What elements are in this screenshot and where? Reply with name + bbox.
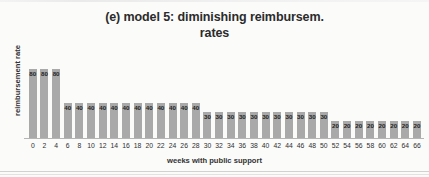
bar: 30 — [285, 112, 293, 138]
x-tick-label: 4 — [50, 141, 62, 150]
bar-value-label: 20 — [332, 122, 339, 129]
bar-value-label: 30 — [227, 113, 234, 120]
bar-slot: 40 — [97, 62, 109, 138]
bar-value-label: 40 — [157, 104, 164, 111]
bar-value-label: 40 — [64, 104, 71, 111]
x-tick-label: 22 — [155, 141, 167, 150]
bar-value-label: 30 — [262, 113, 269, 120]
bar-value-label: 30 — [251, 113, 258, 120]
x-tick-label: 32 — [213, 141, 225, 150]
bar-value-label: 40 — [76, 104, 83, 111]
bar: 40 — [110, 103, 118, 138]
bar-slot: 30 — [306, 62, 318, 138]
bar: 20 — [378, 121, 386, 138]
chart-title: (e) model 5: diminishing reimbursem. rat… — [0, 9, 429, 41]
bar-value-label: 30 — [297, 113, 304, 120]
bar-slot: 40 — [178, 62, 190, 138]
bar-value-label: 80 — [29, 70, 36, 77]
x-tick-label: 36 — [237, 141, 249, 150]
bar-value-label: 20 — [379, 122, 386, 129]
bar: 20 — [413, 121, 421, 138]
bar-slot: 30 — [318, 62, 330, 138]
bar: 40 — [157, 103, 165, 138]
bar-slot: 40 — [62, 62, 74, 138]
bar-value-label: 40 — [122, 104, 129, 111]
x-tick-label: 48 — [306, 141, 318, 150]
bar-slot: 40 — [85, 62, 97, 138]
x-tick-label: 46 — [295, 141, 307, 150]
chart-figure: (e) model 5: diminishing reimbursem. rat… — [0, 0, 429, 177]
bar-slot: 20 — [353, 62, 365, 138]
bar-value-label: 30 — [320, 113, 327, 120]
x-tick-label: 10 — [85, 141, 97, 150]
x-tick-label: 24 — [167, 141, 179, 150]
bar-slot: 30 — [202, 62, 214, 138]
chart-title-line-2: rates — [0, 25, 429, 41]
x-tick-label: 60 — [376, 141, 388, 150]
bar-slot: 20 — [388, 62, 400, 138]
bar-slot: 30 — [237, 62, 249, 138]
x-tick-label: 34 — [225, 141, 237, 150]
bar-slot: 30 — [213, 62, 225, 138]
bar-slot: 20 — [376, 62, 388, 138]
x-tick-label: 12 — [97, 141, 109, 150]
bar-value-label: 20 — [414, 122, 421, 129]
x-tick-label: 44 — [283, 141, 295, 150]
x-tick-label: 40 — [260, 141, 272, 150]
bar-slot: 20 — [341, 62, 353, 138]
bar: 20 — [366, 121, 374, 138]
scan-artifact-bottom — [0, 171, 429, 172]
bar-value-label: 40 — [169, 104, 176, 111]
bar-value-label: 30 — [285, 113, 292, 120]
x-tick-label: 58 — [365, 141, 377, 150]
bar-value-label: 80 — [53, 70, 60, 77]
x-tick-label: 8 — [74, 141, 86, 150]
bar: 30 — [273, 112, 281, 138]
bar: 30 — [215, 112, 223, 138]
x-tick-label: 38 — [248, 141, 260, 150]
bar: 20 — [343, 121, 351, 138]
bar-slot: 80 — [27, 62, 39, 138]
x-tick-label: 50 — [318, 141, 330, 150]
bar: 20 — [401, 121, 409, 138]
bar: 40 — [134, 103, 142, 138]
bar-value-label: 30 — [274, 113, 281, 120]
x-tick-label: 14 — [108, 141, 120, 150]
x-tick-label: 28 — [190, 141, 202, 150]
bar: 40 — [75, 103, 83, 138]
x-tick-label: 0 — [27, 141, 39, 150]
bar-slot: 30 — [295, 62, 307, 138]
bar-slot: 40 — [74, 62, 86, 138]
bar-value-label: 40 — [192, 104, 199, 111]
x-axis-line — [24, 138, 424, 139]
x-tick-label: 6 — [62, 141, 74, 150]
bar-value-label: 20 — [402, 122, 409, 129]
bar-slot: 40 — [120, 62, 132, 138]
bar: 20 — [355, 121, 363, 138]
bar-value-label: 30 — [216, 113, 223, 120]
bar-slot: 20 — [411, 62, 423, 138]
bar-slot: 20 — [365, 62, 377, 138]
bar: 40 — [169, 103, 177, 138]
x-tick-label: 2 — [39, 141, 51, 150]
bar-value-label: 20 — [344, 122, 351, 129]
bar: 30 — [308, 112, 316, 138]
x-tick-label: 30 — [202, 141, 214, 150]
x-tick-label: 64 — [400, 141, 412, 150]
bar-value-label: 40 — [111, 104, 118, 111]
bar-slot: 40 — [190, 62, 202, 138]
bar: 40 — [122, 103, 130, 138]
bar-value-label: 80 — [41, 70, 48, 77]
bar-slot: 20 — [330, 62, 342, 138]
bar: 30 — [238, 112, 246, 138]
x-axis-tick-labels: 0246810121416182022242628303234363840424… — [27, 141, 423, 150]
scan-artifact-top — [0, 0, 429, 2]
bar-slot: 80 — [39, 62, 51, 138]
bar-value-label: 20 — [367, 122, 374, 129]
bar-value-label: 20 — [390, 122, 397, 129]
bar: 40 — [99, 103, 107, 138]
x-tick-label: 54 — [341, 141, 353, 150]
chart-title-line-1: (e) model 5: diminishing reimbursem. — [105, 10, 324, 24]
x-tick-label: 66 — [411, 141, 423, 150]
bar-slot: 40 — [132, 62, 144, 138]
